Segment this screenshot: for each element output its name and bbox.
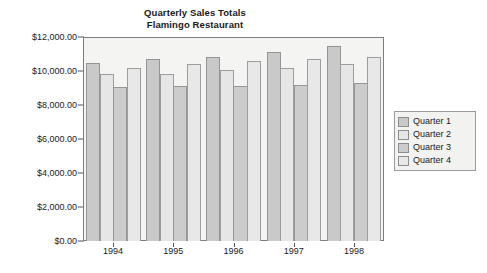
y-axis-tick-label: $0.00	[0, 236, 77, 246]
legend-swatch-icon-quarter-1	[398, 117, 409, 127]
legend-item-quarter-4[interactable]: Quarter 4	[398, 154, 471, 167]
legend-label: Quarter 3	[413, 142, 451, 153]
plot-area	[83, 37, 384, 241]
y-axis-tick-label: $12,000.00	[0, 32, 77, 42]
legend-label: Quarter 4	[413, 155, 451, 166]
legend-swatch-icon-quarter-2	[398, 130, 409, 140]
legend-swatch-icon-quarter-4	[398, 156, 409, 166]
legend-item-quarter-1[interactable]: Quarter 1	[398, 115, 471, 128]
legend-swatch-icon-quarter-3	[398, 143, 409, 153]
legend-item-quarter-3[interactable]: Quarter 3	[398, 141, 471, 154]
chart-container: Quarterly Sales Totals Flamingo Restaura…	[0, 0, 487, 273]
x-axis-tick-label: 1996	[223, 246, 243, 256]
y-axis: $0.00$2,000.00$4,000.00$6,000.00$8,000.0…	[0, 0, 77, 273]
y-axis-tick-label: $6,000.00	[0, 134, 77, 144]
y-axis-tick-label: $4,000.00	[0, 168, 77, 178]
x-axis-tick-label: 1994	[103, 246, 123, 256]
x-axis-tick-label: 1998	[344, 246, 364, 256]
y-axis-tick-label: $8,000.00	[0, 100, 77, 110]
y-axis-tick-label: $2,000.00	[0, 202, 77, 212]
y-axis-tick-label: $10,000.00	[0, 66, 77, 76]
x-axis-tick-label: 1997	[284, 246, 304, 256]
legend-label: Quarter 2	[413, 129, 451, 140]
x-axis-tick-label: 1995	[163, 246, 183, 256]
legend-label: Quarter 1	[413, 116, 451, 127]
x-axis: 19941995199619971998	[83, 243, 384, 263]
legend-item-quarter-2[interactable]: Quarter 2	[398, 128, 471, 141]
chart-legend: Quarter 1Quarter 2Quarter 3Quarter 4	[394, 111, 476, 171]
